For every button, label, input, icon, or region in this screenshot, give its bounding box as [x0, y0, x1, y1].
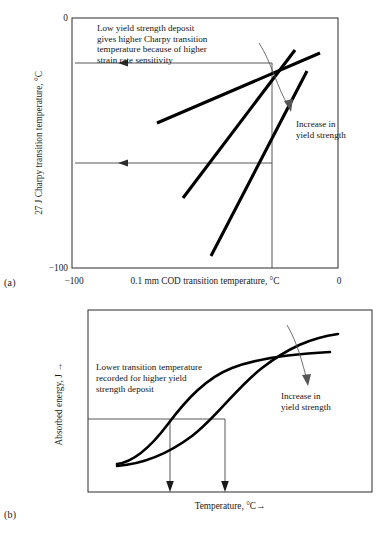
chart-panel-a: 0 −100 −100 0 0.1 mm COD transition temp…	[0, 0, 385, 300]
chart-panel-b: Absorbed energy, J → Temperature, °C→ Lo…	[0, 296, 385, 534]
figure-container: 0 −100 −100 0 0.1 mm COD transition temp…	[0, 0, 385, 534]
data-line-a-low-yield	[157, 53, 320, 123]
y-axis-label-b: Absorbed energy, J →	[54, 363, 64, 446]
annotation-a-arrow-line2: yield strength	[296, 130, 346, 140]
annotation-a-line2: gives higher Charpy transition	[97, 34, 208, 44]
panel-tag-a: (a)	[4, 277, 16, 288]
x-axis-label-a: 0.1 mm COD transition temperature, °C	[130, 276, 279, 286]
annotation-b-line2: recorded for higher yield	[96, 373, 187, 383]
annotation-b-line3: strength deposit	[96, 384, 154, 394]
x-tick-a-minus100: −100	[64, 276, 84, 286]
x-tick-a-0: 0	[337, 276, 342, 286]
annotation-a-arrow-line1: Increase in	[296, 119, 336, 129]
x-axis-label-b: Temperature, °C→	[195, 501, 266, 511]
annotation-arrowhead-b	[302, 374, 311, 386]
annotation-a-line3: temperature because of higher	[97, 44, 207, 54]
arrowhead-b-left	[166, 481, 174, 492]
y-tick-a-0: 0	[63, 13, 68, 23]
y-tick-a-minus100: −100	[49, 263, 69, 273]
annotation-b-line1: Lower transition temperature	[96, 362, 202, 372]
annotation-b-arrow-line1: Increase in	[281, 391, 321, 401]
panel-tag-b: (b)	[4, 509, 16, 520]
annotation-b-arrow-line2: yield strength	[281, 402, 331, 412]
annotation-a-line1: Low yield strength deposit	[97, 23, 195, 33]
arrowhead-lower-a	[118, 160, 128, 167]
annotation-a-line4: strain rate sensitivity	[97, 55, 173, 65]
annotation-curve-arrow-a	[259, 43, 289, 107]
y-axis-label-a: 27 J Charpy transition temperature, °C	[34, 71, 44, 215]
arrowhead-b-right	[221, 481, 229, 492]
